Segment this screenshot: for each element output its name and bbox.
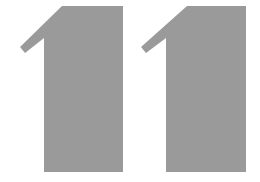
digit-one-right-shape	[141, 6, 246, 172]
digit-one-left-shape	[20, 6, 123, 172]
numeral-graphic: 11	[0, 0, 260, 182]
digit-one-left	[0, 0, 130, 182]
digit-one-right	[123, 0, 253, 182]
